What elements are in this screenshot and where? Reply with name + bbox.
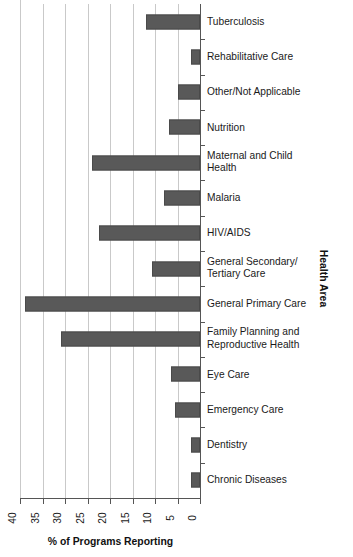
bar[interactable] xyxy=(146,14,200,29)
x-tick xyxy=(155,499,156,504)
bar[interactable] xyxy=(175,402,200,417)
bar[interactable] xyxy=(152,261,200,276)
bar[interactable] xyxy=(61,332,201,347)
x-tick xyxy=(88,499,89,504)
x-tick-group xyxy=(20,499,201,504)
bar-row xyxy=(20,322,200,357)
x-tick xyxy=(20,499,21,504)
bar-row xyxy=(20,392,200,427)
category-tick xyxy=(200,427,205,428)
bar-row xyxy=(20,145,200,180)
x-tick xyxy=(110,499,111,504)
bar-row xyxy=(20,357,200,392)
bar-row xyxy=(20,251,200,286)
bar[interactable] xyxy=(99,226,200,241)
category-tick xyxy=(200,392,205,393)
y-axis-title: Health Area xyxy=(315,0,329,557)
bar-row xyxy=(20,286,200,321)
category-tick xyxy=(200,180,205,181)
x-ticklabel: 5 xyxy=(165,505,176,531)
x-tick xyxy=(65,499,66,504)
bar[interactable] xyxy=(191,438,200,453)
bar-row xyxy=(20,75,200,110)
bar-row xyxy=(20,427,200,462)
category-tick xyxy=(200,357,205,358)
x-ticklabel: 40 xyxy=(7,505,18,531)
category-tick xyxy=(200,75,205,76)
category-tick xyxy=(200,145,205,146)
bar[interactable] xyxy=(25,296,200,311)
category-tick xyxy=(200,286,205,287)
x-tick xyxy=(200,499,201,504)
x-ticklabel-group: 4035302520151050 xyxy=(0,505,210,531)
bar[interactable] xyxy=(164,191,200,206)
category-tick xyxy=(200,251,205,252)
bar[interactable] xyxy=(169,120,201,135)
category-tick xyxy=(200,463,205,464)
axis-left-boundary xyxy=(20,0,21,499)
bar[interactable] xyxy=(92,155,200,170)
x-ticklabel: 15 xyxy=(120,505,131,531)
x-axis-title: % of Programs Reporting xyxy=(20,536,201,547)
x-ticklabel: 10 xyxy=(142,505,153,531)
category-tick xyxy=(200,216,205,217)
x-tick xyxy=(43,499,44,504)
bar-row xyxy=(20,180,200,215)
category-tick xyxy=(200,110,205,111)
x-tick xyxy=(178,499,179,504)
x-ticklabel: 35 xyxy=(30,505,41,531)
category-tick-group xyxy=(200,4,206,499)
x-ticklabel: 30 xyxy=(52,505,63,531)
bar-row xyxy=(20,39,200,74)
bar[interactable] xyxy=(171,367,200,382)
bar-row xyxy=(20,216,200,251)
bar[interactable] xyxy=(191,473,200,488)
plot-area xyxy=(20,4,200,498)
x-ticklabel: 20 xyxy=(97,505,108,531)
bar[interactable] xyxy=(191,49,200,64)
category-tick xyxy=(200,322,205,323)
x-ticklabel: 25 xyxy=(75,505,86,531)
x-ticklabel: 0 xyxy=(187,505,198,531)
bar-row xyxy=(20,4,200,39)
bar[interactable] xyxy=(178,85,201,100)
bar-row xyxy=(20,463,200,498)
category-tick xyxy=(200,39,205,40)
bar-chart: TuberculosisRehabilitative CareOther/Not… xyxy=(0,0,353,557)
x-tick xyxy=(133,499,134,504)
bar-row xyxy=(20,110,200,145)
bars-group xyxy=(20,4,200,498)
